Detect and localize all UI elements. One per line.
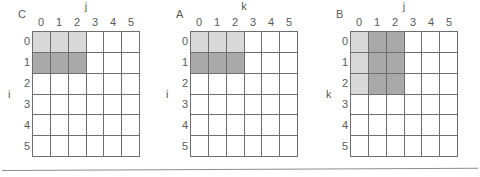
matrix-cell-b-1-3	[405, 53, 423, 74]
col-headers-c: 012345	[32, 16, 140, 29]
matrix-cell-a-3-1	[209, 95, 227, 116]
col-header-a-5: 5	[280, 16, 298, 29]
matrix-cell-b-2-0	[351, 74, 369, 95]
matrix-cell-c-4-3	[87, 115, 105, 136]
row-header-b-1: 1	[334, 52, 348, 73]
matrix-cell-b-0-0	[351, 32, 369, 53]
row-header-c-4: 4	[16, 115, 30, 136]
matrix-cell-b-0-5	[440, 32, 458, 53]
col-header-a-4: 4	[262, 16, 280, 29]
matrix-cell-b-1-5	[440, 53, 458, 74]
row-header-b-2: 2	[334, 73, 348, 94]
col-header-c-5: 5	[122, 16, 140, 29]
row-header-c-5: 5	[16, 136, 30, 157]
matrix-name-c: C	[18, 9, 26, 20]
matrix-cell-a-5-3	[245, 136, 263, 157]
matrix-cell-b-5-1	[369, 136, 387, 157]
matrix-cell-a-0-2	[227, 32, 245, 53]
matrix-cell-b-3-1	[369, 95, 387, 116]
matrix-multiplication-figure: Cji012345012345 Aki012345012345 Bjk01234…	[0, 0, 480, 177]
matrix-cell-a-2-0	[191, 74, 209, 95]
col-header-c-1: 1	[50, 16, 68, 29]
col-header-b-1: 1	[368, 16, 386, 29]
col-header-b-0: 0	[350, 16, 368, 29]
matrix-cell-c-3-5	[122, 95, 140, 116]
matrix-cell-a-1-0	[191, 53, 209, 74]
matrix-cell-b-2-1	[369, 74, 387, 95]
matrix-cell-c-4-5	[122, 115, 140, 136]
matrix-cell-b-4-3	[405, 115, 423, 136]
row-header-a-1: 1	[174, 52, 188, 73]
row-header-a-0: 0	[174, 31, 188, 52]
matrix-cell-a-4-3	[245, 115, 263, 136]
matrix-name-b: B	[336, 9, 343, 20]
col-header-c-2: 2	[68, 16, 86, 29]
row-header-a-5: 5	[174, 136, 188, 157]
matrix-cell-a-4-0	[191, 115, 209, 136]
matrix-cell-c-2-5	[122, 74, 140, 95]
matrix-cell-c-3-0	[33, 95, 51, 116]
row-headers-b: 012345	[334, 31, 348, 157]
matrix-cell-a-5-5	[280, 136, 298, 157]
matrix-cell-a-3-0	[191, 95, 209, 116]
matrix-cell-c-2-0	[33, 74, 51, 95]
matrix-cell-c-5-0	[33, 136, 51, 157]
col-headers-b: 012345	[350, 16, 458, 29]
matrix-cell-c-1-1	[51, 53, 69, 74]
matrix-cell-c-3-2	[69, 95, 87, 116]
col-axis-label-c: j	[32, 1, 140, 12]
matrix-cell-a-1-1	[209, 53, 227, 74]
row-headers-a: 012345	[174, 31, 188, 157]
row-header-c-1: 1	[16, 52, 30, 73]
matrix-cell-b-0-2	[387, 32, 405, 53]
matrix-cell-b-5-2	[387, 136, 405, 157]
matrix-cell-b-2-5	[440, 74, 458, 95]
row-headers-c: 012345	[16, 31, 30, 157]
col-header-c-0: 0	[32, 16, 50, 29]
row-header-b-3: 3	[334, 94, 348, 115]
matrix-cell-b-4-2	[387, 115, 405, 136]
matrix-cell-b-2-2	[387, 74, 405, 95]
matrix-cell-a-3-4	[262, 95, 280, 116]
matrix-cell-c-3-1	[51, 95, 69, 116]
row-header-c-3: 3	[16, 94, 30, 115]
col-header-b-2: 2	[386, 16, 404, 29]
matrix-cell-b-0-4	[422, 32, 440, 53]
matrix-cell-a-0-4	[262, 32, 280, 53]
col-axis-label-a: k	[190, 1, 298, 12]
matrix-cell-a-4-4	[262, 115, 280, 136]
col-header-b-3: 3	[404, 16, 422, 29]
col-header-a-3: 3	[244, 16, 262, 29]
matrix-cell-c-0-3	[87, 32, 105, 53]
col-header-a-2: 2	[226, 16, 244, 29]
matrix-grid-a	[190, 31, 298, 157]
matrix-cell-c-0-4	[104, 32, 122, 53]
row-header-a-3: 3	[174, 94, 188, 115]
matrix-cell-c-4-4	[104, 115, 122, 136]
matrix-cell-b-3-4	[422, 95, 440, 116]
matrix-cell-c-5-5	[122, 136, 140, 157]
matrix-cell-a-4-5	[280, 115, 298, 136]
matrix-cell-b-3-0	[351, 95, 369, 116]
matrix-cell-a-3-5	[280, 95, 298, 116]
matrix-cell-a-1-5	[280, 53, 298, 74]
matrix-cell-a-5-0	[191, 136, 209, 157]
matrix-cell-c-0-5	[122, 32, 140, 53]
matrix-cell-c-1-4	[104, 53, 122, 74]
matrix-cell-a-4-2	[227, 115, 245, 136]
matrix-cell-b-4-1	[369, 115, 387, 136]
matrix-cell-c-0-0	[33, 32, 51, 53]
matrix-cell-a-2-5	[280, 74, 298, 95]
matrix-cell-b-1-1	[369, 53, 387, 74]
matrix-cell-c-4-0	[33, 115, 51, 136]
matrix-cell-b-1-4	[422, 53, 440, 74]
matrix-cell-c-2-1	[51, 74, 69, 95]
matrix-cell-c-5-4	[104, 136, 122, 157]
matrix-cell-b-0-1	[369, 32, 387, 53]
matrix-cell-b-3-3	[405, 95, 423, 116]
matrix-cell-a-5-1	[209, 136, 227, 157]
matrix-cell-c-4-2	[69, 115, 87, 136]
matrix-cell-a-0-3	[245, 32, 263, 53]
matrix-cell-b-1-0	[351, 53, 369, 74]
matrix-grid-c	[32, 31, 140, 157]
